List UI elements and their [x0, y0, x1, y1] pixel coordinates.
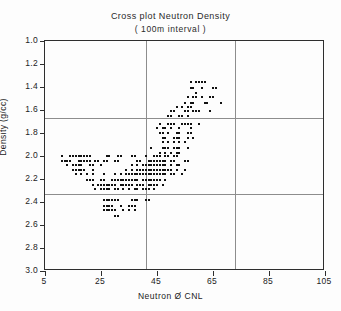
data-point: [131, 169, 133, 171]
data-point: [94, 160, 96, 162]
data-point: [178, 132, 180, 134]
data-point: [209, 96, 211, 98]
data-point: [162, 169, 164, 171]
data-point: [125, 184, 127, 186]
y-tick-label-4: 1.8: [8, 127, 38, 137]
data-point: [66, 164, 68, 166]
data-point: [89, 155, 91, 157]
data-point: [178, 115, 180, 117]
data-point: [190, 102, 192, 104]
data-point: [192, 87, 194, 89]
data-point: [145, 179, 147, 181]
data-point: [190, 127, 192, 129]
data-point: [176, 106, 178, 108]
data-point: [120, 205, 122, 207]
data-point: [78, 164, 80, 166]
data-point: [134, 155, 136, 157]
y-tick-label-3: 1.6: [8, 104, 38, 114]
data-point: [148, 164, 150, 166]
data-point: [61, 160, 63, 162]
data-point: [162, 173, 164, 175]
data-point: [150, 173, 152, 175]
data-point: [170, 160, 172, 162]
data-point: [111, 199, 113, 201]
data-point: [164, 179, 166, 181]
data-point: [139, 169, 141, 171]
data-point: [167, 169, 169, 171]
x-tick-label-5: 105: [309, 276, 339, 286]
data-point: [120, 173, 122, 175]
data-point: [139, 173, 141, 175]
data-point: [162, 160, 164, 162]
data-point: [156, 184, 158, 186]
data-point: [156, 164, 158, 166]
y-tick-label-10: 3.0: [8, 265, 38, 275]
data-point: [97, 184, 99, 186]
data-point: [176, 147, 178, 149]
data-point: [198, 110, 200, 112]
data-point: [106, 160, 108, 162]
data-point: [176, 137, 178, 139]
data-point: [83, 169, 85, 171]
data-point: [148, 188, 150, 190]
data-point: [145, 173, 147, 175]
data-point: [170, 127, 172, 129]
data-point: [114, 188, 116, 190]
data-point: [173, 173, 175, 175]
data-point: [156, 127, 158, 129]
data-point: [128, 173, 130, 175]
data-point: [187, 160, 189, 162]
data-point: [100, 188, 102, 190]
data-point: [142, 164, 144, 166]
data-point: [108, 209, 110, 211]
scatter-plot-figure: Cross plot Neutron Density ( 100m interv…: [0, 0, 341, 311]
data-point: [106, 155, 108, 157]
y-tick-label-7: 2.4: [8, 196, 38, 206]
data-point: [167, 147, 169, 149]
data-point: [159, 169, 161, 171]
data-point: [159, 173, 161, 175]
data-point: [92, 184, 94, 186]
data-point: [156, 169, 158, 171]
data-point: [128, 205, 130, 207]
data-point: [153, 184, 155, 186]
data-point: [80, 173, 82, 175]
data-point: [131, 184, 133, 186]
data-point: [178, 137, 180, 139]
data-point: [181, 106, 183, 108]
data-point: [100, 184, 102, 186]
data-point: [167, 123, 169, 125]
data-point: [136, 164, 138, 166]
data-point: [78, 160, 80, 162]
data-point: [108, 205, 110, 207]
data-point: [128, 188, 130, 190]
data-point: [162, 132, 164, 134]
data-point: [139, 184, 141, 186]
data-point: [181, 123, 183, 125]
data-point: [148, 199, 150, 201]
data-point: [148, 169, 150, 171]
data-point: [150, 169, 152, 171]
y-tick-label-8: 2.6: [8, 219, 38, 229]
data-point: [136, 188, 138, 190]
data-point: [153, 164, 155, 166]
data-point: [92, 169, 94, 171]
data-point: [170, 152, 172, 154]
data-point: [215, 87, 217, 89]
data-point: [178, 127, 180, 129]
data-point: [120, 155, 122, 157]
data-point: [69, 160, 71, 162]
data-point: [72, 169, 74, 171]
data-point: [106, 184, 108, 186]
data-point: [128, 179, 130, 181]
data-point: [148, 173, 150, 175]
data-point: [134, 205, 136, 207]
data-point: [204, 102, 206, 104]
data-point: [122, 188, 124, 190]
data-point: [162, 184, 164, 186]
data-point: [111, 179, 113, 181]
y-tick-label-1: 1.2: [8, 58, 38, 68]
data-point: [187, 96, 189, 98]
data-point: [162, 137, 164, 139]
data-point: [167, 141, 169, 143]
